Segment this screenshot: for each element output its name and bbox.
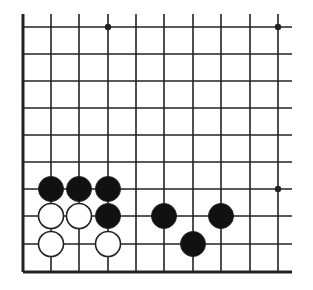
black-stone-icon [209,204,234,229]
black-stone-icon [181,232,206,257]
grid-lines [23,14,292,272]
black-stone-icon [39,177,64,202]
black-stone-icon [152,204,177,229]
white-stone-icon [39,232,64,257]
star-point-icon [275,24,281,30]
white-stone-icon [39,204,64,229]
star-point-icon [105,24,111,30]
white-stone-icon [96,232,121,257]
black-stone-icon [96,204,121,229]
go-board [0,0,313,290]
star-point-icon [275,186,281,192]
black-stone-icon [96,177,121,202]
black-stone-icon [67,177,92,202]
white-stone-icon [67,204,92,229]
